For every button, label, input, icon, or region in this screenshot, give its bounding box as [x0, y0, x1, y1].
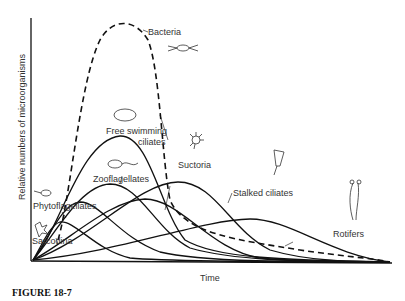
- series-free-swimming-ciliates: [33, 136, 390, 262]
- label-stalked-ciliates: Stalked ciliates: [233, 188, 293, 198]
- series-bacteria: [58, 24, 390, 263]
- suctoria-icon: [192, 136, 200, 144]
- sarcodina-icon: [35, 222, 48, 237]
- y-axis-label: Relative numbers of microorganisms: [17, 80, 27, 200]
- x-axis-label: Time: [200, 273, 220, 283]
- ciliate-icon: [114, 109, 136, 121]
- label-free-swimming-1: Free swimming: [106, 126, 167, 136]
- series-sarcodina: [33, 222, 390, 262]
- label-free-swimming-2: ciliates: [138, 137, 166, 147]
- series-rotifers: [33, 219, 390, 262]
- phytoflagellate-icon: [41, 190, 51, 196]
- bacteria-icon: [177, 45, 189, 51]
- zooflagellate-icon: [108, 160, 122, 168]
- label-suctoria: Suctoria: [178, 160, 211, 170]
- label-zooflagellates: Zooflagellates: [93, 174, 149, 184]
- figure-caption: FIGURE 18-7: [12, 287, 72, 298]
- label-phytoflagellates: Phytoflagellates: [33, 201, 97, 211]
- rotifer-icon: [350, 183, 359, 220]
- label-bacteria: Bacteria: [148, 27, 181, 37]
- succession-chart: [0, 0, 405, 301]
- stalked-ciliate-icon: [274, 150, 284, 175]
- label-rotifers: Rotifers: [333, 229, 364, 239]
- label-sarcodina: Sarcodina: [32, 236, 73, 246]
